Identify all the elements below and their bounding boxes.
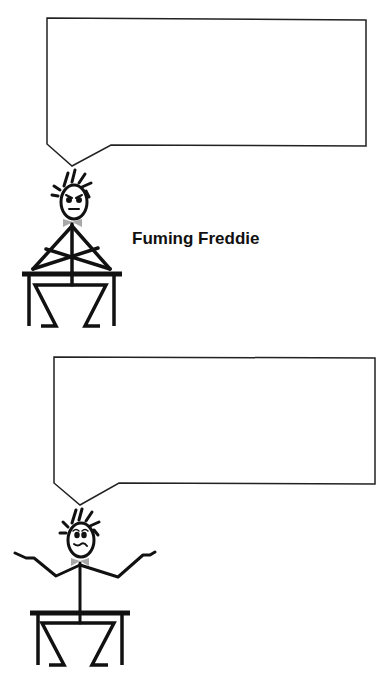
speech-bubble-1[interactable] [47, 18, 366, 166]
fuming-freddie-panel: Fuming Freddie [0, 0, 389, 340]
speech-bubble-2[interactable] [54, 357, 375, 505]
fuming-freddie-caption: Fuming Freddie [132, 229, 260, 249]
cool-freddie-panel: Cool Freddie [0, 340, 389, 688]
head-icon [61, 185, 87, 219]
fuming-freddie-illustration [0, 0, 389, 340]
cool-freddie-illustration [0, 340, 389, 688]
legs-icon [35, 285, 106, 326]
head-icon [68, 523, 94, 557]
legs-icon [42, 623, 114, 665]
